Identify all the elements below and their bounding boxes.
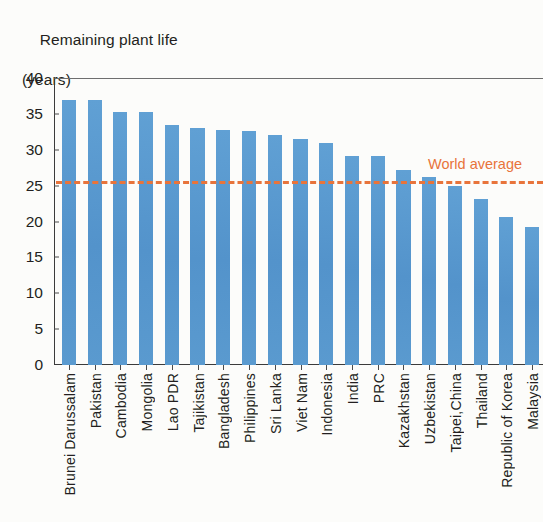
- bar: [319, 143, 333, 365]
- y-tick-label-40: 40: [26, 69, 43, 87]
- x-tick-label: Bangladesh: [216, 373, 232, 449]
- x-tick-label: Pakistan: [88, 373, 104, 428]
- x-tick-mark: [378, 365, 379, 370]
- x-tick-mark: [352, 365, 353, 370]
- bar: [422, 177, 436, 365]
- x-tick-label: Uzbekistan: [422, 373, 438, 444]
- x-tick-label: Viet Nam: [294, 373, 310, 432]
- bar: [62, 100, 76, 365]
- chart-figure: Remaining plant life (years) 05101520253…: [0, 0, 543, 522]
- bars-layer: [54, 78, 543, 365]
- bar: [216, 130, 230, 365]
- y-tick-label-10: 10: [26, 284, 43, 302]
- x-tick-label: Thailand: [474, 373, 490, 428]
- x-tick-label: Cambodia: [113, 373, 129, 438]
- x-tick-mark: [506, 365, 507, 370]
- x-tick-label: Kazakhstan: [396, 373, 412, 448]
- x-tick-label: Brunei Darussalam: [62, 373, 78, 495]
- x-tick-mark: [69, 365, 70, 370]
- bar: [88, 100, 102, 365]
- y-tick-label-20: 20: [26, 213, 43, 231]
- bar: [242, 131, 256, 365]
- bar: [448, 186, 462, 365]
- x-tick-label: Taipei,China: [448, 373, 464, 452]
- y-tick-label-15: 15: [26, 248, 43, 266]
- x-tick-mark: [301, 365, 302, 370]
- x-tick-label: Philippines: [242, 373, 258, 443]
- x-tick-label: Lao PDR: [165, 373, 181, 431]
- bar: [499, 217, 513, 365]
- x-tick-label: Tajikistan: [191, 373, 207, 433]
- bar: [525, 227, 539, 365]
- y-tick-label-30: 30: [26, 141, 43, 159]
- x-tick-mark: [326, 365, 327, 370]
- y-tick-label-25: 25: [26, 177, 43, 195]
- bar: [293, 139, 307, 365]
- y-axis: 0510152025303540: [0, 0, 54, 365]
- x-tick-label: Malaysia: [525, 373, 541, 430]
- x-axis: Brunei DarussalamPakistanCambodiaMongoli…: [54, 365, 543, 522]
- bar: [474, 199, 488, 365]
- bar: [345, 156, 359, 365]
- x-tick-mark: [95, 365, 96, 370]
- bar: [113, 112, 127, 365]
- x-tick-mark: [403, 365, 404, 370]
- bar: [371, 156, 385, 365]
- x-tick-label: India: [345, 373, 361, 404]
- x-tick-mark: [120, 365, 121, 370]
- y-tick-label-0: 0: [34, 356, 43, 374]
- x-tick-mark: [172, 365, 173, 370]
- y-tick-label-35: 35: [26, 105, 43, 123]
- x-tick-label: Indonesia: [319, 373, 335, 436]
- bar: [190, 128, 204, 365]
- world-average-line: [56, 181, 543, 184]
- x-tick-label: Sri Lanka: [268, 373, 284, 434]
- x-tick-label: Mongolia: [139, 373, 155, 431]
- bar: [165, 125, 179, 365]
- bar: [396, 170, 410, 365]
- x-tick-label: Republic of Korea: [499, 373, 515, 488]
- y-tick-label-5: 5: [34, 320, 43, 338]
- x-tick-mark: [249, 365, 250, 370]
- x-tick-mark: [481, 365, 482, 370]
- chart-title-line1: Remaining plant life: [40, 31, 178, 48]
- bar: [268, 135, 282, 365]
- x-tick-mark: [198, 365, 199, 370]
- x-tick-mark: [223, 365, 224, 370]
- bar: [139, 112, 153, 365]
- world-average-label: World average: [428, 156, 522, 172]
- x-tick-mark: [146, 365, 147, 370]
- x-tick-mark: [532, 365, 533, 370]
- x-tick-mark: [455, 365, 456, 370]
- x-tick-mark: [275, 365, 276, 370]
- x-tick-mark: [429, 365, 430, 370]
- x-tick-label: PRC: [371, 373, 387, 403]
